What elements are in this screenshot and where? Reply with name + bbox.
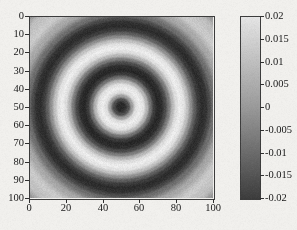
- y-axis-tick-label: 80: [0, 157, 24, 167]
- y-axis-tick-label: 0: [0, 11, 24, 21]
- y-axis-tick: [25, 34, 29, 35]
- colorbar-tick-label: -0.01: [265, 148, 287, 158]
- colorbar-tick-label: -0.02: [265, 193, 287, 203]
- y-axis-tick-label: 10: [0, 29, 24, 39]
- y-axis-tick-label: 60: [0, 120, 24, 130]
- colorbar[interactable]: [240, 16, 261, 200]
- x-axis-tick-label: 20: [51, 203, 81, 213]
- y-axis-tick: [25, 143, 29, 144]
- colorbar-tick: [260, 175, 264, 176]
- y-axis-tick-label: 40: [0, 84, 24, 94]
- x-axis-tick-label: 80: [161, 203, 191, 213]
- y-axis-tick: [25, 52, 29, 53]
- y-axis-tick-label: 20: [0, 47, 24, 57]
- colorbar-tick-label: 0: [265, 102, 270, 112]
- colorbar-tick-label: 0.015: [265, 34, 289, 44]
- y-axis-tick: [25, 71, 29, 72]
- x-axis-tick-label: 40: [88, 203, 118, 213]
- y-axis-tick: [25, 125, 29, 126]
- heatmap-plot-area[interactable]: [29, 16, 213, 198]
- x-axis-tick-label: 0: [14, 203, 44, 213]
- y-axis-tick-label: 100: [0, 193, 24, 203]
- colorbar-tick: [260, 62, 264, 63]
- colorbar-tick: [260, 16, 264, 17]
- figure-canvas: 0102030405060708090100 020406080100 0.02…: [0, 0, 297, 230]
- y-axis-tick: [25, 107, 29, 108]
- y-axis-tick: [25, 16, 29, 17]
- colorbar-tick: [260, 107, 264, 108]
- colorbar-tick-label: -0.015: [265, 170, 292, 180]
- x-axis-tick-label: 100: [198, 203, 228, 213]
- colorbar-tick: [260, 153, 264, 154]
- y-axis-tick: [25, 162, 29, 163]
- colorbar-tick: [260, 84, 264, 85]
- colorbar-tick: [260, 198, 264, 199]
- y-axis-tick-label: 30: [0, 66, 24, 76]
- colorbar-tick-label: 0.01: [265, 57, 283, 67]
- y-axis-tick-label: 90: [0, 175, 24, 185]
- x-axis-tick-label: 60: [124, 203, 154, 213]
- y-axis-tick: [25, 89, 29, 90]
- colorbar-tick-label: 0.005: [265, 79, 289, 89]
- colorbar-tick-label: -0.005: [265, 125, 292, 135]
- y-axis-tick-label: 70: [0, 138, 24, 148]
- colorbar-tick: [260, 39, 264, 40]
- y-axis-tick: [25, 180, 29, 181]
- colorbar-tick: [260, 130, 264, 131]
- colorbar-tick-label: 0.02: [265, 11, 283, 21]
- heatmap-image: [29, 16, 213, 198]
- y-axis-tick-label: 50: [0, 102, 24, 112]
